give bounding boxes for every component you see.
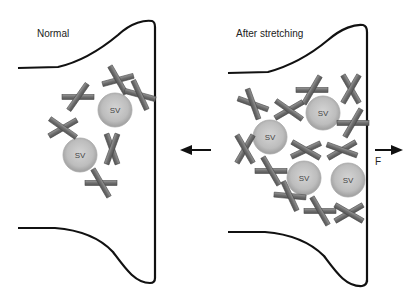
arrow-right	[375, 145, 403, 155]
synaptic-vesicle: SV	[98, 93, 132, 127]
synapsin-crosslink	[304, 196, 336, 226]
diagram-canvas: SVSV SVSVSVSV	[0, 0, 415, 301]
synapsin-crosslink	[235, 134, 255, 164]
synaptic-vesicle: SV	[306, 96, 340, 130]
synapsin-crosslink	[326, 140, 358, 160]
synapsin-crosslink	[290, 140, 321, 160]
synapsin-crosslink	[341, 74, 361, 104]
vesicle-label: SV	[110, 106, 121, 115]
panel-title-normal: Normal	[37, 28, 69, 39]
left-panel-content: SVSV	[48, 65, 156, 198]
vesicle-label: SV	[299, 174, 310, 183]
synaptic-vesicle: SV	[63, 138, 97, 172]
synaptic-vesicle: SV	[287, 161, 321, 195]
right-panel-content: SVSVSVSV	[235, 74, 369, 226]
synaptic-vesicle: SV	[253, 120, 287, 154]
synapsin-crosslink	[255, 156, 287, 186]
arrow-left	[180, 145, 211, 155]
arrow-left-head	[180, 145, 192, 155]
synapsin-crosslink	[62, 82, 94, 111]
synapsin-crosslink	[337, 108, 369, 138]
vesicle-label: SV	[343, 176, 354, 185]
synapsin-crosslink	[104, 133, 120, 165]
vesicle-label: SV	[75, 151, 86, 160]
right-membrane-bottom	[228, 232, 367, 286]
synapsin-crosslink	[85, 168, 117, 198]
arrow-right-head	[391, 145, 403, 155]
synapsin-crosslink	[334, 203, 364, 223]
synapsin-crosslink	[48, 117, 78, 139]
vesicle-label: SV	[265, 133, 276, 142]
synapsin-crosslink	[274, 99, 304, 121]
force-label: F	[375, 156, 381, 167]
panel-title-after-stretching: After stretching	[236, 28, 303, 39]
vesicle-label: SV	[318, 109, 329, 118]
synaptic-vesicle: SV	[331, 163, 365, 197]
synapsin-crosslink	[237, 88, 269, 120]
left-membrane-bottom	[18, 228, 155, 283]
